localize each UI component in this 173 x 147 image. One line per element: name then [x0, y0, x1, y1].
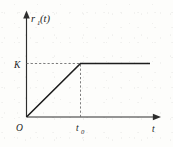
- y-axis-arrow-icon: [23, 11, 30, 19]
- origin-label: O: [16, 123, 23, 133]
- figure-container: r 1 (t) K O t 0 t: [0, 0, 173, 147]
- y-axis-label-argument: (t): [40, 13, 50, 25]
- curve-group: [27, 64, 151, 118]
- y-tick-label-k: K: [13, 60, 21, 70]
- x-axis-arrow-icon: [153, 114, 161, 120]
- ramp-saturation-chart: r 1 (t) K O t 0 t: [0, 0, 173, 147]
- ramp-saturation-curve: [27, 64, 151, 118]
- x-tick-label-t0-subscript: 0: [81, 128, 85, 135]
- y-axis-label-group: r 1 (t): [31, 13, 50, 26]
- x-tick-label-t0-group: t 0: [76, 123, 85, 135]
- axes-group: [23, 11, 161, 121]
- y-axis-label-name: r: [31, 13, 36, 24]
- x-tick-label-t0-name: t: [76, 123, 79, 133]
- x-axis-label: t: [152, 124, 155, 134]
